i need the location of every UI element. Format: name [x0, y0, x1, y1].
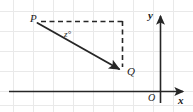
vector-pq-arrow — [38, 23, 120, 69]
point-q-label: Q — [127, 66, 135, 77]
origin-label: O — [148, 93, 155, 103]
y-axis-label: y — [148, 10, 153, 21]
x-axis-label: x — [178, 95, 184, 106]
geometry-diagram: P z° Q y O x — [0, 0, 193, 112]
angle-z-label: z° — [64, 30, 71, 39]
axes-group — [9, 16, 183, 103]
point-p-label: P — [30, 13, 37, 24]
diagram-canvas — [0, 0, 193, 112]
